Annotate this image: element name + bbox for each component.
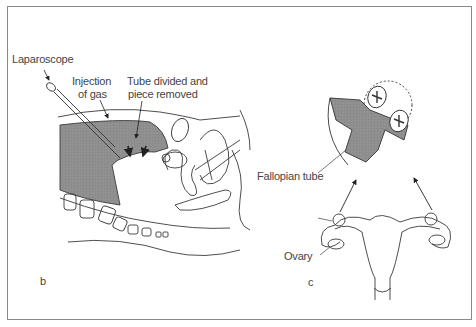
label-tube-divided-line2: piece removed: [128, 88, 198, 101]
panel-label-b: b: [40, 275, 46, 288]
uterus-diagram: [321, 213, 450, 300]
label-laparoscope: Laparoscope: [12, 53, 73, 66]
tube-ligation-detail: [328, 81, 412, 165]
panel-label-c: c: [308, 276, 313, 289]
label-tube-divided-line1: Tube divided and: [127, 75, 208, 88]
label-injection-line2: of gas: [78, 88, 107, 101]
label-fallopian-tube: Fallopian tube: [257, 170, 323, 183]
body-cross-section: [58, 109, 250, 255]
label-injection-line1: Injection: [72, 75, 111, 88]
laparoscopic-sterilisation-illustration: [0, 0, 476, 327]
label-ovary: Ovary: [284, 250, 312, 263]
